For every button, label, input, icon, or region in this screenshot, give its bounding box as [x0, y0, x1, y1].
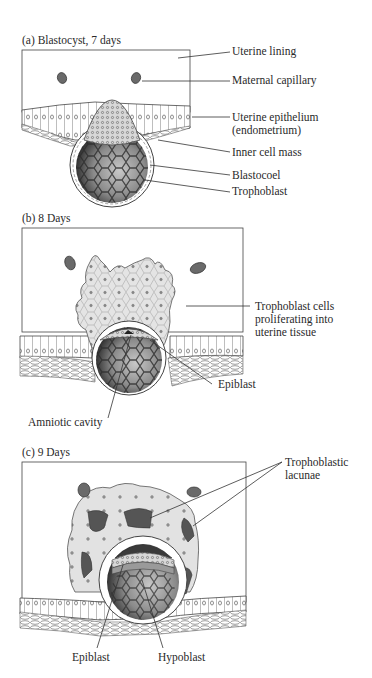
panel-b-title: (b) 8 Days — [22, 212, 71, 224]
label-epiblast-c: Epiblast — [72, 651, 110, 664]
label-trophoblastic: Trophoblastic — [285, 456, 348, 469]
label-proliferating-into: proliferating into — [255, 313, 333, 326]
panel-b-art — [20, 228, 243, 395]
diagram-artwork — [0, 0, 372, 678]
label-endometrium: (endometrium) — [232, 124, 301, 137]
label-inner-cell-mass: Inner cell mass — [232, 146, 302, 159]
label-trophoblast-cells: Trophoblast cells — [255, 300, 334, 313]
panel-c-title: (c) 9 Days — [22, 446, 70, 458]
label-blastocoel: Blastocoel — [232, 169, 281, 182]
panel-a-art — [22, 50, 190, 207]
panel-a-title: (a) Blastocyst, 7 days — [22, 34, 121, 46]
label-uterine-lining: Uterine lining — [232, 45, 296, 58]
label-maternal-capillary: Maternal capillary — [232, 74, 317, 87]
label-lacunae: lacunae — [285, 469, 320, 482]
label-uterine-epithelium: Uterine epithelium — [232, 111, 319, 124]
label-uterine-tissue: uterine tissue — [255, 326, 316, 339]
label-amniotic-cavity: Amniotic cavity — [28, 416, 102, 429]
panel-c-art — [20, 462, 246, 636]
label-trophoblast: Trophoblast — [232, 185, 287, 198]
label-epiblast-b: Epiblast — [218, 378, 256, 391]
label-hypoblast: Hypoblast — [158, 651, 205, 664]
